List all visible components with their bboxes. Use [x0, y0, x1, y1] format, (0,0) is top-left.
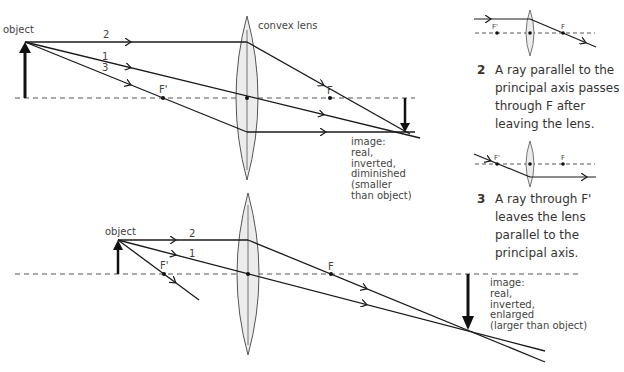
bottom-object-label: object [105, 226, 136, 237]
rule3-mini-diagram [474, 141, 596, 187]
focal-label-f-prime: F' [159, 84, 168, 95]
focal-point-f [328, 96, 332, 100]
focal-label-f: F [328, 261, 334, 272]
rule3-f-prime-label: F' [494, 153, 500, 164]
top-image-description: image: real, inverted, diminished (small… [351, 137, 412, 202]
focal-label-f: F [327, 85, 333, 96]
convex-lens-label: convex lens [258, 20, 317, 31]
rule3-caption: 3 A ray through F' leaves the lens paral… [477, 190, 624, 262]
focal-point-f [329, 272, 333, 276]
focal-point-f-prime [162, 272, 166, 276]
focal-label-f-prime: F' [160, 260, 169, 271]
ray-label-2: 2 [189, 228, 195, 239]
ray-label-1: 1 [102, 51, 108, 62]
optical-centre [246, 272, 250, 276]
rule2-f-prime-label: F' [492, 22, 498, 33]
focal-point-f-prime [161, 96, 165, 100]
rule3-f-label: F [561, 153, 565, 164]
optical-centre [245, 96, 249, 100]
top-object-label: object [3, 24, 34, 35]
ray-label-1: 1 [189, 248, 195, 259]
bottom-image-description: image: real, inverted, enlarged (larger … [490, 278, 587, 332]
rule2-f-label: F [561, 22, 565, 33]
ray-label-3: 3 [102, 62, 108, 73]
rule2-caption: 2 A ray parallel to the principal axis p… [477, 61, 624, 133]
rule2-mini-diagram [474, 10, 596, 56]
ray-label-2: 2 [103, 29, 109, 40]
